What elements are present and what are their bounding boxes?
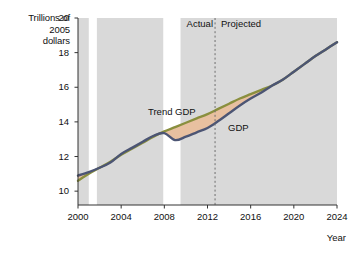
x-tick-label: 2004 <box>104 211 138 222</box>
annotation-projected: Projected <box>221 18 261 29</box>
x-tick-label: 2012 <box>191 211 225 222</box>
y-tick-label: 10 <box>47 185 69 196</box>
annotation-actual: Actual <box>187 18 213 29</box>
y-tick-label: 20 <box>47 12 69 23</box>
x-tick-label: 2016 <box>234 211 268 222</box>
annotation-trend-gdp: Trend GDP <box>148 106 196 117</box>
x-tick-label: 2024 <box>320 211 351 222</box>
annotation-gdp: GDP <box>228 122 249 133</box>
chart-figure: Trillions of 2005 dollars Year Actual Pr… <box>0 0 351 255</box>
recession-band <box>89 18 97 205</box>
x-tick-label: 2008 <box>147 211 181 222</box>
y-tick-label: 16 <box>47 81 69 92</box>
plot-background <box>78 18 337 205</box>
x-tick-label: 2000 <box>61 211 95 222</box>
y-tick-label: 12 <box>47 151 69 162</box>
y-tick-label: 18 <box>47 47 69 58</box>
y-tick-label: 14 <box>47 116 69 127</box>
x-tick-label: 2020 <box>277 211 311 222</box>
